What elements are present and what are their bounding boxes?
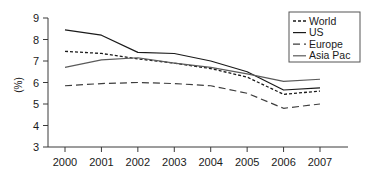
y-tick-label: 9 (33, 12, 39, 24)
x-tick-label: 2004 (198, 156, 222, 168)
x-tick-label: 2002 (126, 156, 150, 168)
data-series-group (65, 30, 320, 108)
legend-label-europe[interactable]: Europe (309, 38, 343, 50)
y-tick-label: 8 (33, 34, 39, 46)
line-chart: 3456789 20002001200220032004200520062007… (0, 0, 365, 184)
chart-legend: WorldUSEuropeAsia Pac (289, 12, 360, 62)
y-tick-label: 6 (33, 77, 39, 89)
y-tick-label: 7 (33, 55, 39, 67)
x-tick-label: 2003 (162, 156, 186, 168)
legend-label-asia-pac[interactable]: Asia Pac (309, 49, 350, 61)
x-tick-label: 2007 (308, 156, 332, 168)
legend-label-us[interactable]: US (309, 26, 324, 38)
series-line-asia-pac (65, 58, 320, 82)
y-tick-label: 3 (33, 141, 39, 153)
y-tick-label: 5 (33, 98, 39, 110)
series-line-europe (65, 83, 320, 109)
x-tick-label: 2001 (89, 156, 113, 168)
x-tick-label: 2005 (235, 156, 259, 168)
y-axis-ticks: 3456789 (33, 12, 48, 153)
x-tick-label: 2006 (271, 156, 295, 168)
y-tick-label: 4 (33, 120, 39, 132)
legend-label-world[interactable]: World (309, 15, 336, 27)
x-tick-label: 2000 (53, 156, 77, 168)
y-axis-title: (%) (13, 77, 24, 93)
x-axis-ticks: 20002001200220032004200520062007 (53, 147, 332, 168)
chart-figure: 3456789 20002001200220032004200520062007… (0, 0, 365, 184)
